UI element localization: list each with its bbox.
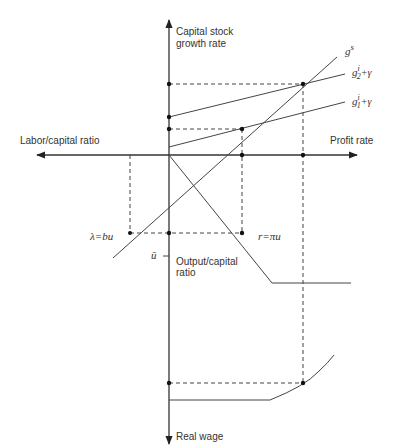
top-axis-label-1: Capital stock xyxy=(176,26,234,37)
labor-line-label: λ=bu xyxy=(89,230,114,242)
output-capital-label-2: ratio xyxy=(176,267,196,278)
right-axis-label: Profit rate xyxy=(330,135,374,146)
macro-growth-diagram: Capital stock growth rate Labor/capital … xyxy=(0,0,397,448)
real-wage-label: Real wage xyxy=(176,431,224,442)
real-wage-curve xyxy=(169,355,334,400)
profit-line-label: r=πu xyxy=(258,230,281,242)
u-bar-label: ū xyxy=(151,249,157,261)
g1-label: gi1+γ xyxy=(352,93,372,110)
gs-label: gs xyxy=(345,42,355,57)
output-capital-label-1: Output/capital xyxy=(176,256,238,267)
g2-line xyxy=(169,74,345,117)
g2-label: gi2+γ xyxy=(352,64,372,81)
left-axis-label: Labor/capital ratio xyxy=(20,135,100,146)
top-axis-label-2: growth rate xyxy=(176,38,226,49)
g1-line xyxy=(169,102,345,147)
